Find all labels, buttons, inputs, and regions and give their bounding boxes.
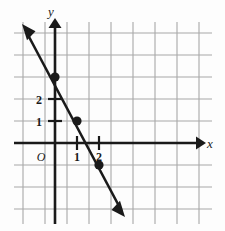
x-tick-label-1: 1: [74, 150, 80, 164]
plotted-point: [50, 72, 59, 81]
x-axis-label: x: [206, 136, 213, 151]
graph-canvas: x y O 2 1 1 2: [0, 0, 225, 231]
plotted-point: [72, 116, 81, 125]
x-tick-label-2: 2: [96, 150, 102, 164]
coordinate-plane-figure: x y O 2 1 1 2: [0, 0, 225, 231]
y-tick-label-1: 1: [36, 115, 42, 129]
origin-label: O: [37, 150, 46, 164]
y-tick-label-2: 2: [36, 93, 42, 107]
y-axis-label: y: [46, 4, 54, 19]
